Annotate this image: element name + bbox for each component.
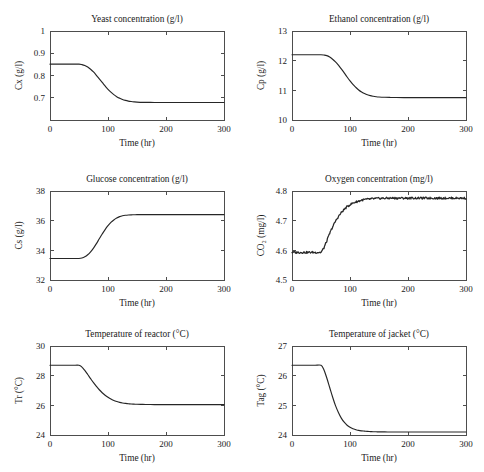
plot-title: Temperature of jacket (°C)	[329, 329, 429, 340]
x-tick-label: 0	[48, 439, 53, 449]
axes-frame	[50, 191, 224, 280]
axes-frame	[292, 191, 466, 280]
y-tick-label: 24	[278, 430, 288, 440]
data-series-line	[292, 55, 466, 98]
plot-panel-oxygen-concentration: Oxygen concentration (mg/l)01002003004.5…	[242, 160, 484, 315]
x-tick-label: 100	[343, 284, 357, 294]
x-tick-label: 200	[401, 284, 415, 294]
plot-panel-ethanol-concentration: Ethanol concentration (g/l)0100200300101…	[242, 0, 484, 160]
y-tick-label: 0.8	[34, 71, 46, 81]
y-tick-label: 4.6	[276, 246, 288, 256]
x-tick-label: 200	[401, 439, 415, 449]
y-axis-label: CO₂ (mg/l)	[256, 215, 267, 257]
plot-title: Ethanol concentration (g/l)	[329, 14, 429, 25]
axes-frame	[50, 346, 224, 435]
y-axis-label: Cx (g/l)	[14, 61, 25, 90]
plot-title: Oxygen concentration (mg/l)	[325, 174, 433, 185]
y-tick-label: 4.7	[276, 216, 288, 226]
x-tick-label: 200	[401, 124, 415, 134]
x-tick-label: 100	[101, 124, 115, 134]
y-tick-label: 26	[278, 371, 288, 381]
y-axis-label: Tr (°C)	[14, 377, 25, 404]
x-tick-label: 100	[343, 124, 357, 134]
x-tick-label: 300	[459, 439, 473, 449]
y-tick-label: 34	[36, 246, 46, 256]
y-axis-label: Cs (g/l)	[14, 221, 25, 249]
x-tick-label: 300	[217, 439, 231, 449]
x-tick-label: 0	[48, 284, 53, 294]
y-axis-label: Tag (°C)	[256, 374, 267, 406]
y-tick-label: 32	[36, 275, 45, 285]
data-series-line	[50, 365, 224, 404]
x-tick-label: 200	[159, 439, 173, 449]
data-series-line	[50, 64, 224, 102]
y-tick-label: 13	[278, 26, 288, 36]
y-tick-label: 30	[36, 341, 46, 351]
y-tick-label: 27	[278, 341, 288, 351]
x-axis-label: Time (hr)	[361, 138, 397, 149]
x-tick-label: 0	[48, 124, 53, 134]
data-series-line	[50, 215, 224, 259]
plot-panel-yeast-concentration: Yeast concentration (g/l)01002003000.70.…	[0, 0, 242, 160]
x-tick-label: 300	[217, 124, 231, 134]
x-axis-label: Time (hr)	[119, 138, 155, 149]
y-tick-label: 24	[36, 430, 46, 440]
plot-title: Glucose concentration (g/l)	[86, 174, 188, 185]
data-series-line	[292, 365, 466, 432]
y-tick-label: 4.5	[276, 275, 288, 285]
y-tick-label: 12	[278, 56, 287, 66]
axes-frame	[292, 346, 466, 435]
figure-grid: Yeast concentration (g/l)01002003000.70.…	[0, 0, 484, 472]
y-tick-label: 25	[278, 401, 288, 411]
x-tick-label: 300	[217, 284, 231, 294]
y-tick-label: 26	[36, 401, 46, 411]
x-axis-label: Time (hr)	[361, 453, 397, 464]
y-tick-label: 0.7	[34, 93, 46, 103]
x-axis-label: Time (hr)	[119, 298, 155, 309]
x-tick-label: 200	[159, 284, 173, 294]
y-tick-label: 11	[278, 86, 287, 96]
x-tick-label: 200	[159, 124, 173, 134]
axes-frame	[292, 31, 466, 120]
x-tick-label: 0	[290, 284, 295, 294]
x-axis-label: Time (hr)	[119, 453, 155, 464]
data-series-line	[292, 197, 466, 253]
x-tick-label: 100	[343, 439, 357, 449]
x-tick-label: 100	[101, 439, 115, 449]
plot-panel-jacket-temperature: Temperature of jacket (°C)01002003002425…	[242, 315, 484, 472]
y-tick-label: 36	[36, 216, 46, 226]
plot-panel-reactor-temperature: Temperature of reactor (°C)0100200300242…	[0, 315, 242, 472]
axes-frame	[50, 31, 224, 120]
plot-title: Yeast concentration (g/l)	[91, 14, 182, 25]
y-tick-label: 1	[41, 26, 46, 36]
y-tick-label: 38	[36, 186, 46, 196]
x-tick-label: 100	[101, 284, 115, 294]
plot-title: Temperature of reactor (°C)	[85, 329, 188, 340]
y-axis-label: Cp (g/l)	[256, 61, 267, 90]
x-tick-label: 0	[290, 439, 295, 449]
y-tick-label: 10	[278, 115, 288, 125]
x-tick-label: 300	[459, 284, 473, 294]
y-tick-label: 28	[36, 371, 46, 381]
x-tick-label: 0	[290, 124, 295, 134]
x-tick-label: 300	[459, 124, 473, 134]
y-tick-label: 0.9	[34, 48, 46, 58]
y-tick-label: 4.8	[276, 186, 288, 196]
x-axis-label: Time (hr)	[361, 298, 397, 309]
plot-panel-glucose-concentration: Glucose concentration (g/l)0100200300323…	[0, 160, 242, 315]
